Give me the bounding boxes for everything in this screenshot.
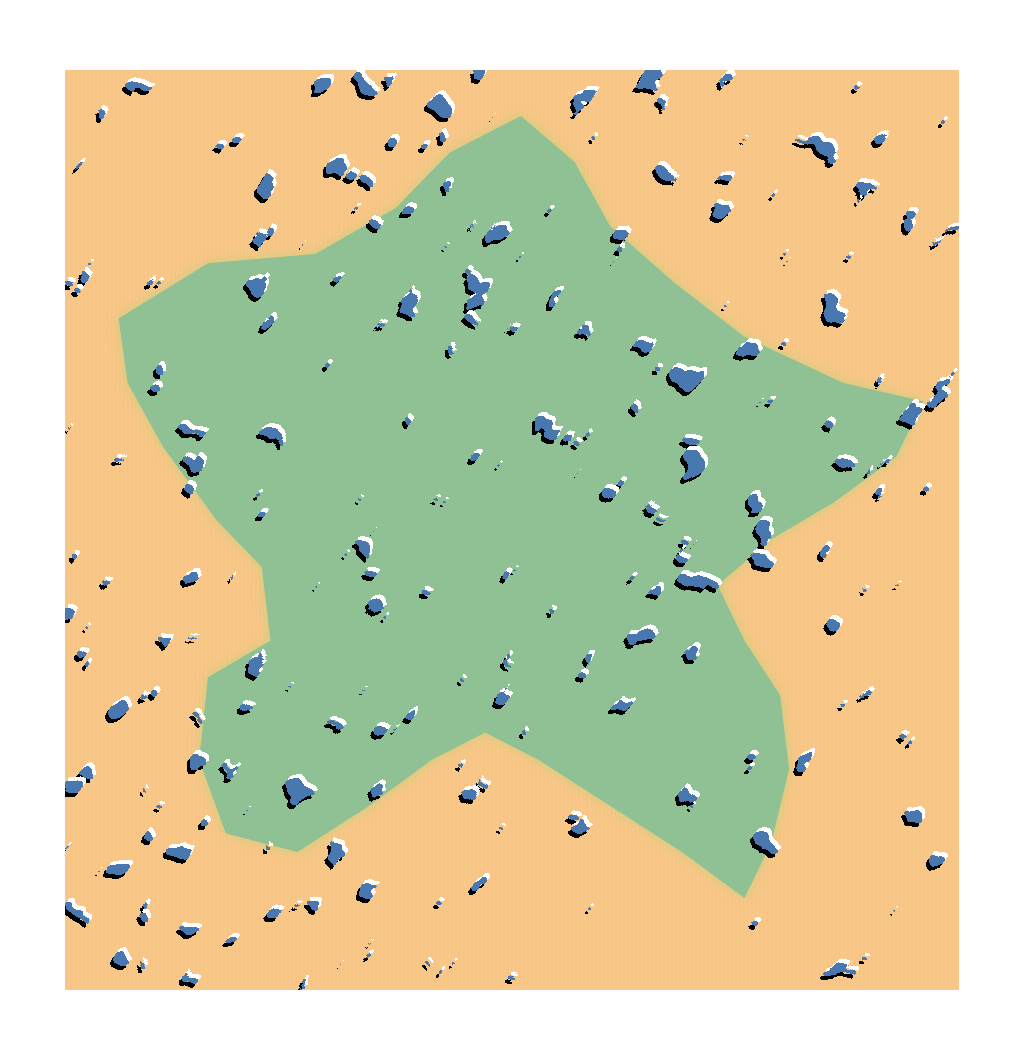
map-canvas bbox=[65, 70, 959, 990]
map-frame bbox=[65, 70, 959, 990]
pattern-overlay bbox=[65, 70, 959, 990]
